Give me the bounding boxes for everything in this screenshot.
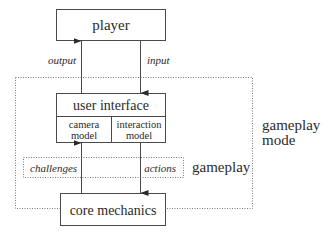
challenges-label: challenges (30, 162, 77, 174)
output-label: output (48, 54, 77, 66)
camera-model-label-line2: model (71, 130, 97, 141)
interaction-model-label-line2: model (126, 130, 152, 141)
actions-label: actions (144, 162, 176, 174)
gameplay-mode-label-line1: gameplay (262, 117, 321, 133)
input-label: input (147, 54, 171, 66)
core-mechanics-label: core mechanics (70, 203, 157, 218)
gameplay-mode-diagram: gameplay mode gameplay challenges action… (0, 0, 325, 238)
gameplay-label: gameplay (192, 159, 251, 175)
gameplay-mode-label-line2: mode (262, 132, 296, 148)
player-label: player (92, 17, 129, 33)
user-interface-label: user interface (73, 98, 149, 113)
camera-model-label-line1: camera (69, 119, 100, 130)
interaction-model-label-line1: interaction (117, 119, 163, 130)
